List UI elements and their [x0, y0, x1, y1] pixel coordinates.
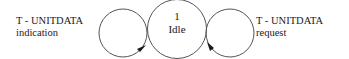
transition-label-indication-line1: T - UNITDATA	[16, 15, 83, 27]
transition-label-request-line2: request	[256, 27, 323, 39]
state-name: Idle	[148, 23, 206, 36]
self-loop-request	[206, 9, 254, 57]
transition-label-request-line1: T - UNITDATA	[256, 15, 323, 27]
transition-label-request: T - UNITDATA request	[256, 15, 323, 39]
transition-label-indication: T - UNITDATA indication	[16, 15, 83, 39]
transition-label-indication-line2: indication	[16, 27, 83, 39]
state-number: 1	[148, 10, 206, 23]
